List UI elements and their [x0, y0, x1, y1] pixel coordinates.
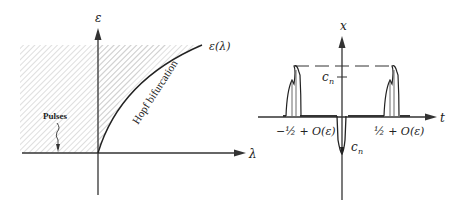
x-axis-label: x	[340, 19, 347, 33]
svg-text:n: n	[358, 147, 363, 156]
curve-label: ε(λ)	[209, 40, 230, 53]
lambda-axis-arrow-icon	[234, 150, 246, 157]
right-tick-label: ½ + O(ε)	[374, 125, 424, 138]
t-axis-arrow-icon	[425, 114, 437, 121]
t-axis-label: t	[440, 111, 445, 125]
svg-text:n: n	[329, 77, 334, 86]
figure: ε λ ε(λ) Hopf bifurcation Pulses x t c n	[0, 0, 466, 210]
lambda-axis-label: λ	[248, 147, 257, 161]
left-tick-label: −½ + O(ε)	[276, 125, 336, 138]
svg-text:c: c	[351, 140, 358, 154]
lower-cn-label: c n	[351, 140, 363, 156]
x-axis-arrow-icon	[339, 36, 346, 48]
left-bifurcation-diagram: ε λ ε(λ) Hopf bifurcation Pulses	[20, 11, 257, 195]
svg-text:c: c	[322, 70, 329, 84]
epsilon-axis-arrow-icon	[95, 28, 102, 40]
right-pulse	[384, 66, 399, 116]
pulses-label: Pulses	[43, 111, 68, 121]
epsilon-axis-label: ε	[95, 11, 101, 25]
right-pulse-diagram: x t c n c n −½ + O(ε) ½ + O(ε)	[258, 19, 445, 200]
left-pulse	[286, 66, 301, 116]
upper-cn-label: c n	[322, 70, 334, 86]
